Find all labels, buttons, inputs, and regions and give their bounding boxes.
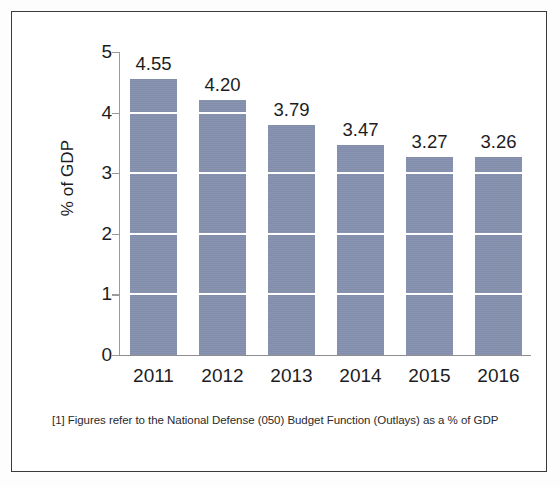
gridline — [120, 233, 531, 235]
bar — [475, 157, 522, 355]
bar-value-label: 4.20 — [188, 74, 257, 96]
bar-value-label: 3.47 — [326, 119, 395, 141]
bar — [406, 157, 453, 355]
bar-value-label: 3.26 — [464, 131, 533, 153]
bar — [268, 125, 315, 355]
bar-value-label: 3.27 — [395, 131, 464, 153]
bar-value-label: 4.55 — [119, 53, 188, 75]
gridline — [120, 293, 531, 295]
bar — [337, 145, 384, 355]
plot-area: % of GDP 012345 4.554.203.793.473.273.26… — [0, 0, 560, 487]
bar-value-label: 3.79 — [257, 99, 326, 121]
bar — [130, 79, 177, 355]
bar — [199, 100, 246, 355]
bar-series — [0, 0, 560, 487]
gridline — [120, 172, 531, 174]
figure-root: % of GDP 012345 4.554.203.793.473.273.26… — [0, 0, 560, 487]
